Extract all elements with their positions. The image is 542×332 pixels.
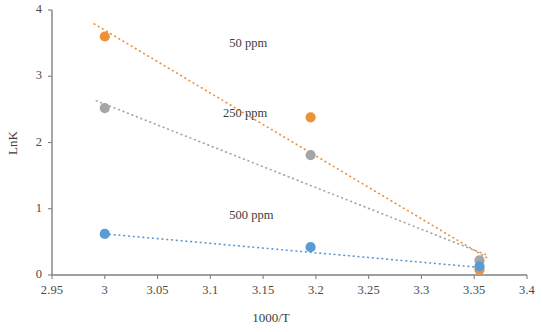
y-tick-label: 0 <box>16 267 42 282</box>
axis-tick-marks <box>48 10 527 279</box>
x-axis-title: 1000/T <box>0 310 542 326</box>
data-point-50-ppm <box>100 31 110 41</box>
x-tick-label: 3.1 <box>187 283 233 298</box>
data-point-250-ppm <box>100 103 110 113</box>
trendline-250-ppm <box>96 101 487 255</box>
data-point-500-ppm <box>100 229 110 239</box>
x-tick-label: 3 <box>82 283 128 298</box>
data-point-50-ppm <box>306 112 316 122</box>
series-annotation-label: 500 ppm <box>229 208 273 223</box>
trendlines-group <box>94 24 487 268</box>
y-axis-title: LnK <box>5 118 21 168</box>
data-point-500-ppm <box>474 261 484 271</box>
x-tick-label: 3.15 <box>240 283 286 298</box>
y-tick-label: 4 <box>16 2 42 17</box>
data-point-250-ppm <box>306 150 316 160</box>
data-point-500-ppm <box>306 242 316 252</box>
trendline-500-ppm <box>105 234 483 268</box>
x-tick-label: 3.2 <box>293 283 339 298</box>
trendline-50-ppm <box>94 24 487 258</box>
y-tick-label: 3 <box>16 68 42 83</box>
x-tick-label: 3.35 <box>451 283 497 298</box>
series-annotation-label: 250 ppm <box>223 106 267 121</box>
chart-container: 01234 2.9533.053.13.153.23.253.33.353.4 … <box>0 0 542 332</box>
x-tick-label: 3.4 <box>504 283 542 298</box>
x-tick-label: 3.25 <box>346 283 392 298</box>
x-tick-label: 3.05 <box>135 283 181 298</box>
x-tick-label: 2.95 <box>29 283 75 298</box>
y-tick-label: 1 <box>16 201 42 216</box>
series-annotation-label: 50 ppm <box>229 36 267 51</box>
x-tick-label: 3.3 <box>398 283 444 298</box>
